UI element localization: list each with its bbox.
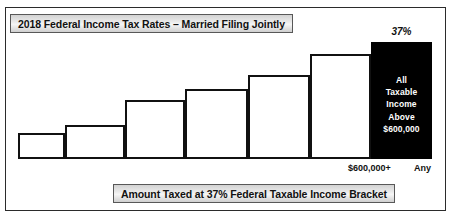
tax-bracket-figure: All Taxable Income Above $600,000 37% $6… [0,0,454,219]
tax-rate-annotation: 37% [371,26,432,37]
highlight-line-5: $600,000 [373,123,430,135]
bar-4 [185,89,248,159]
bar-1 [18,133,65,159]
x-axis-tick-any: Any [414,163,431,173]
bar-6 [310,54,371,159]
chart-title-box: 2018 Federal Income Tax Rates – Married … [10,14,293,33]
highlight-line-3: Income [373,98,430,110]
bar-2 [65,125,125,159]
bar-5 [248,75,310,159]
x-axis-tick-600k: $600,000+ [348,163,391,173]
bar-3 [125,100,185,159]
highlight-line-1: All [373,74,430,86]
highlight-line-2: Taxable [373,86,430,98]
chart-caption-box: Amount Taxed at 37% Federal Taxable Inco… [113,184,395,203]
highlight-bar-label: All Taxable Income Above $600,000 [373,74,430,135]
highlight-line-4: Above [373,111,430,123]
bar-7-highlighted: All Taxable Income Above $600,000 [371,42,432,159]
